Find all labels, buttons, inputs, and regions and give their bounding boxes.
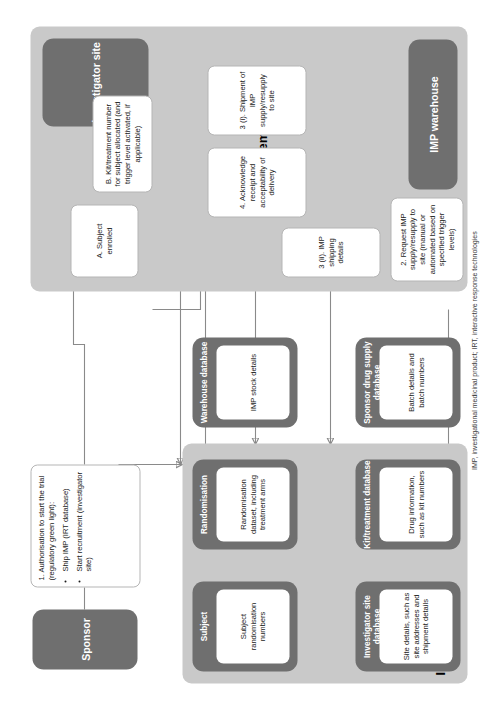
irt-db-investigator-site: Investigator site database Site details,… — [355, 581, 460, 671]
message-request-imp-supply: 2. Request IMP supply/resupply to site (… — [390, 197, 463, 281]
entity-imp-warehouse-label: IMP warehouse — [427, 39, 439, 189]
irt-db-kit-treatment: Kit/treatment database Drug information,… — [355, 459, 460, 549]
irt-db-randomisation: Randomisation Randomisation dataset, inc… — [192, 459, 297, 549]
message-authorisation: 1. Authorisation to start the trial (reg… — [30, 464, 140, 587]
message-imp-shipping-details: 3 (ii). IMP shipping details — [281, 227, 380, 277]
entity-sponsor: Sponsor — [32, 609, 137, 669]
irt-db-randomisation-detail: Randomisation dataset, including treatme… — [216, 467, 289, 541]
irt-db-investigator-site-detail: Site details, such as site addresses and… — [379, 589, 452, 663]
figure-footnote: IMP, investigational medicinal product; … — [471, 231, 478, 470]
diagram-canvas: Sponsor 1. Authorisation to start the tr… — [0, 0, 493, 709]
message-shipment-imp: 3 (i). Shipment of IMP supply/resupply t… — [207, 65, 306, 135]
irt-db-subject-title: Subject — [199, 581, 209, 671]
irt-db-kit-treatment-detail: Drug information, such as kit numbers — [379, 467, 452, 541]
authorisation-heading: 1. Authorisation to start the trial (reg… — [36, 471, 55, 580]
irt-db-warehouse-database-top3: Warehouse database IMP stock details — [192, 337, 297, 427]
message-subject-enrolled: A. Subject enrolled — [70, 204, 138, 277]
authorisation-bullets: Ship IMP (IRT database) Start recruitmen… — [60, 471, 93, 580]
authorisation-bullet-0: Ship IMP (IRT database) — [60, 471, 70, 571]
entity-sponsor-label: Sponsor — [79, 609, 91, 669]
figure-rotated-wrapper: Sponsor 1. Authorisation to start the tr… — [0, 0, 493, 709]
irt-db-subject: Subject Subject randomisation numbers — [192, 581, 297, 671]
irt-db-subject-detail: Subject randomisation numbers — [216, 589, 289, 663]
irt-db-warehouse-title: Warehouse database — [199, 337, 209, 427]
irt-db-kit-treatment-title: Kit/treatment database — [362, 459, 372, 549]
message-acknowledge-receipt: 4. Acknowledge receipt and acceptability… — [207, 147, 306, 217]
authorisation-bullet-1: Start recruitment (investigator site) — [74, 471, 93, 571]
entity-imp-warehouse: IMP warehouse — [408, 39, 457, 189]
irt-db-sponsor-drug-supply-detail: Batch details and batch numbers — [379, 345, 452, 419]
message-kit-treatment-allocated: B. Kit/treatment number for subject allo… — [92, 95, 152, 192]
irt-db-randomisation-title: Randomisation — [199, 459, 209, 549]
irt-db-sponsor-drug-supply: Sponsor drug supply database Batch detai… — [355, 337, 460, 427]
irt-db-warehouse-detail: IMP stock details — [216, 345, 289, 419]
